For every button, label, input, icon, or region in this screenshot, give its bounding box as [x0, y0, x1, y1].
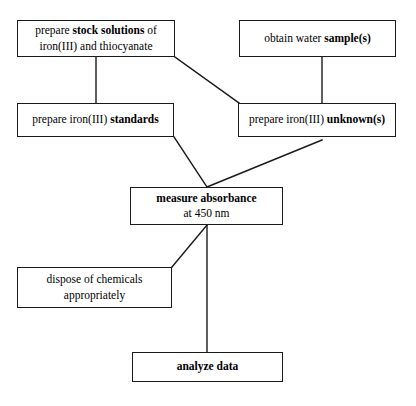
node-text-line: appropriately [64, 288, 125, 303]
node-analyze-data: analyze data [132, 352, 283, 382]
node-text-line: iron(III) and thiocyanate [39, 39, 152, 54]
node-text-line: prepare iron(III) unknown(s) [249, 112, 385, 127]
connector-absorbance-to-dispose [172, 225, 207, 267]
flowchart-diagram: prepare stock solutions of iron(III) and… [0, 0, 416, 406]
node-text-line: prepare stock solutions of [35, 23, 157, 38]
node-prepare-iron-unknowns: prepare iron(III) unknown(s) [238, 103, 396, 137]
node-dispose-of-chemicals: dispose of chemicals appropriately [17, 267, 172, 308]
connector-standards-to-absorbance [174, 137, 207, 187]
node-text-line: prepare iron(III) standards [32, 112, 158, 127]
connector-unknowns-to-absorbance [207, 140, 322, 187]
node-obtain-water-samples: obtain water sample(s) [239, 20, 396, 57]
node-text-line: dispose of chemicals [47, 272, 143, 287]
node-text-line: measure absorbance [156, 191, 256, 206]
node-text-line: at 450 nm [184, 206, 230, 221]
node-text-line: analyze data [177, 359, 239, 374]
node-prepare-stock-solutions: prepare stock solutions of iron(III) and… [17, 20, 175, 57]
node-prepare-iron-standards: prepare iron(III) standards [17, 103, 174, 137]
node-text-line: obtain water sample(s) [264, 31, 371, 46]
node-measure-absorbance: measure absorbance at 450 nm [130, 187, 283, 225]
connector-stock-to-unknowns [175, 57, 239, 103]
